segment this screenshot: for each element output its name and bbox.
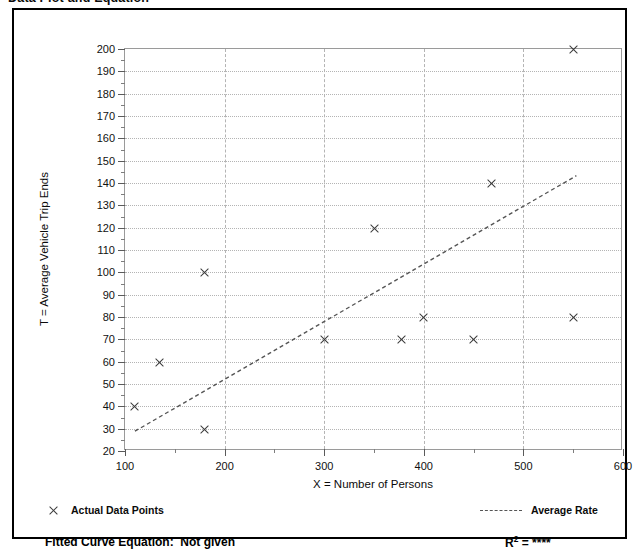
y-axis-minor-tick [121, 351, 125, 352]
x-axis-minor-tick [274, 449, 275, 453]
legend-marker-average-rate [480, 510, 522, 511]
data-point-marker [468, 334, 479, 345]
y-axis-tick-label: 80 [103, 311, 115, 323]
y-axis-tick [118, 384, 125, 385]
x-axis-minor-tick [175, 449, 176, 453]
x-axis-minor-tick [374, 449, 375, 453]
data-point-marker [568, 312, 579, 323]
y-axis-tick [118, 317, 125, 318]
r-squared-equals: = [518, 536, 532, 549]
x-axis-tick [225, 449, 226, 456]
page-title: Data Plot and Equation [8, 0, 149, 5]
y-axis-tick-label: 130 [97, 199, 115, 211]
y-axis-minor-tick [121, 284, 125, 285]
x-axis-tick [125, 449, 126, 456]
y-axis-tick [118, 250, 125, 251]
x-axis-minor-tick [474, 449, 475, 453]
y-axis-tick [118, 94, 125, 95]
y-axis-minor-tick [121, 261, 125, 262]
y-axis-tick [118, 295, 125, 296]
y-axis-tick-label: 110 [97, 244, 115, 256]
y-axis-tick [118, 429, 125, 430]
y-axis-minor-tick [121, 395, 125, 396]
legend-label-average-rate: Average Rate [531, 504, 598, 516]
data-point-marker [396, 334, 407, 345]
y-axis-tick-label: 30 [103, 423, 115, 435]
x-axis-tick [324, 449, 325, 456]
y-axis-tick-label: 60 [103, 356, 115, 368]
y-axis-tick-label: 170 [97, 110, 115, 122]
y-axis-minor-tick [121, 105, 125, 106]
x-axis-tick [623, 449, 624, 456]
x-axis-tick [424, 449, 425, 456]
data-point-marker [129, 401, 140, 412]
y-axis-tick [118, 183, 125, 184]
data-points-layer [125, 49, 621, 449]
y-axis-tick [118, 138, 125, 139]
y-axis-tick-label: 200 [97, 43, 115, 55]
y-axis-title: T = Average Vehicle Trip Ends [38, 172, 50, 326]
y-axis-minor-tick [121, 217, 125, 218]
fitted-curve-value: Not given [180, 535, 235, 549]
y-axis-tick-label: 100 [97, 266, 115, 278]
y-axis-minor-tick [121, 60, 125, 61]
y-axis-tick-label: 180 [97, 88, 115, 100]
data-point-marker [319, 334, 330, 345]
y-axis-minor-tick [121, 172, 125, 173]
y-axis-tick [118, 49, 125, 50]
y-axis-tick-label: 70 [103, 333, 115, 345]
y-axis-minor-tick [121, 127, 125, 128]
y-axis-tick [118, 451, 125, 452]
x-axis-tick [523, 449, 524, 456]
y-axis-minor-tick [121, 440, 125, 441]
r-squared-value: R2 = **** [505, 534, 551, 549]
data-point-marker [199, 267, 210, 278]
r-squared-label: R [505, 536, 514, 549]
y-axis-tick-label: 150 [97, 155, 115, 167]
y-axis-minor-tick [121, 328, 125, 329]
data-point-marker [486, 178, 497, 189]
y-axis-tick [118, 362, 125, 363]
plot-area: 2030405060708090100110120130140150160170… [124, 48, 622, 450]
fitted-curve-equation: Fitted Curve Equation: Not given [45, 535, 235, 549]
data-point-marker [154, 356, 165, 367]
x-axis-tick-label: 600 [614, 460, 632, 472]
chart-figure-frame: 2030405060708090100110120130140150160170… [12, 8, 627, 539]
y-axis-tick-label: 190 [97, 65, 115, 77]
y-axis-tick [118, 161, 125, 162]
y-axis-tick-label: 120 [97, 222, 115, 234]
y-axis-tick-label: 50 [103, 378, 115, 390]
y-axis-minor-tick [121, 306, 125, 307]
y-axis-minor-tick [121, 373, 125, 374]
y-axis-tick-label: 90 [103, 289, 115, 301]
y-axis-tick [118, 406, 125, 407]
y-axis-minor-tick [121, 194, 125, 195]
y-axis-tick [118, 205, 125, 206]
y-axis-tick-label: 160 [97, 132, 115, 144]
y-axis-tick [118, 71, 125, 72]
data-point-marker [418, 312, 429, 323]
x-axis-tick-label: 500 [514, 460, 532, 472]
y-axis-tick [118, 339, 125, 340]
y-axis-minor-tick [121, 418, 125, 419]
legend-label-actual-data-points: Actual Data Points [71, 504, 164, 516]
x-axis-tick-label: 200 [215, 460, 233, 472]
x-axis-minor-tick [573, 449, 574, 453]
y-axis-tick [118, 116, 125, 117]
r-squared-stars: **** [532, 536, 551, 549]
x-axis-tick-label: 100 [116, 460, 134, 472]
y-axis-minor-tick [121, 150, 125, 151]
y-axis-minor-tick [121, 239, 125, 240]
data-point-marker [199, 423, 210, 434]
y-axis-tick [118, 228, 125, 229]
y-axis-tick-label: 140 [97, 177, 115, 189]
data-point-marker [568, 44, 579, 55]
y-axis-minor-tick [121, 83, 125, 84]
y-axis-tick-label: 20 [103, 445, 115, 457]
y-axis-tick-label: 40 [103, 400, 115, 412]
x-axis-tick-label: 400 [415, 460, 433, 472]
data-point-marker [369, 222, 380, 233]
y-axis-tick [118, 272, 125, 273]
legend-marker-actual-data-points [48, 504, 59, 515]
x-axis-tick-label: 300 [315, 460, 333, 472]
